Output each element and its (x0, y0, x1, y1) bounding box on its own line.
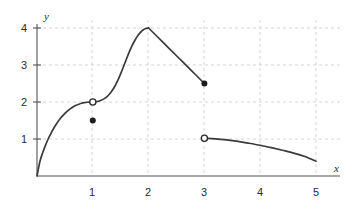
function-graph-figure: 1 2 3 4 1 2 3 4 5 y x (0, 0, 351, 207)
curve-branch-2 (149, 28, 205, 84)
open-circle-at-1-2 (90, 99, 96, 105)
filled-dot-at-1-1.5 (90, 118, 95, 123)
filled-dot-at-3-2.5 (202, 81, 207, 86)
plot-area: 1 2 3 4 1 2 3 4 5 y x (0, 0, 351, 207)
x-axis-label: x (333, 162, 339, 174)
x-tick-label-5: 5 (313, 186, 319, 198)
x-tick-label-3: 3 (201, 186, 207, 198)
y-axis-label: y (43, 10, 49, 22)
x-tick-label-2: 2 (145, 186, 151, 198)
y-tick-label-1: 1 (21, 133, 27, 145)
y-tick-label-2: 2 (21, 96, 27, 108)
x-tick-label-1: 1 (89, 186, 95, 198)
y-tick-label-4: 4 (21, 22, 27, 34)
x-tick-label-4: 4 (257, 186, 263, 198)
endpoint-markers (90, 81, 208, 141)
open-circle-at-3-1 (201, 135, 207, 141)
y-tick-label-3: 3 (21, 59, 27, 71)
